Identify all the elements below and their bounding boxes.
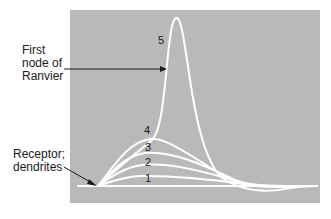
label-receptor-line2: dendrites — [13, 161, 83, 174]
curve-label-5: 5 — [158, 34, 164, 46]
label-first-node-of-ranvier: First node of Ranvier — [22, 44, 82, 83]
curve-label-1: 1 — [145, 172, 151, 184]
curve-3 — [98, 153, 300, 187]
curve-label-2: 2 — [145, 156, 151, 168]
curve-1 — [98, 176, 300, 186]
curve-2 — [98, 164, 300, 186]
potential-curves — [0, 0, 331, 219]
curve-label-4: 4 — [144, 124, 150, 136]
label-receptor-dendrites: Receptor; dendrites — [13, 148, 83, 174]
curve-5 — [98, 18, 318, 191]
receptor-arrowhead-icon — [87, 179, 97, 186]
label-ranvier-line3: Ranvier — [22, 70, 82, 83]
curve-label-3: 3 — [145, 141, 151, 153]
